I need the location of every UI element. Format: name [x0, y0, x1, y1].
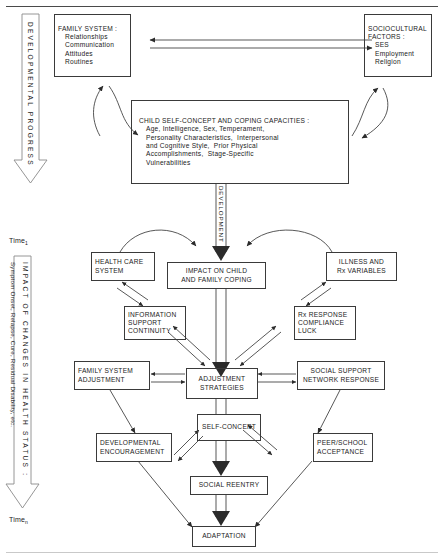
box-line: Routines — [58, 58, 127, 66]
box-line: COMPLIANCE — [298, 319, 352, 327]
box-line: Rx VARIABLES — [330, 267, 393, 275]
box-line: ILLNESS AND — [330, 258, 393, 266]
box-line: Personality Characteristics, Interperson… — [139, 134, 345, 142]
box-line: SES — [368, 41, 428, 49]
box-health-care-system[interactable]: HEALTH CARE SYSTEM — [91, 252, 155, 281]
box-line: Age, Intelligence, Sex, Temperament, — [139, 125, 345, 133]
box-line: FAMILY SYSTEM : — [58, 25, 127, 33]
box-line: IMPACT ON CHILD — [171, 267, 262, 275]
box-illness-rx-variables[interactable]: ILLNESS AND Rx VARIABLES — [326, 252, 397, 281]
box-line: Attitudes — [58, 50, 127, 58]
time-start-text: Time — [9, 237, 25, 244]
box-line: SYSTEM — [95, 267, 151, 275]
box-line: NETWORK RESPONSE — [301, 376, 381, 384]
box-line: HEALTH CARE — [95, 258, 151, 266]
box-line: CHILD SELF-CONCEPT AND COPING CAPACITIES… — [139, 117, 345, 125]
box-line: STRATEGIES — [190, 384, 254, 392]
box-line: ADJUSTMENT — [78, 376, 146, 384]
box-line: SUPPORT — [128, 319, 182, 327]
box-adjustment-strategies[interactable]: ADJUSTMENT STRATEGIES — [186, 368, 258, 399]
box-line: SOCIOCULTURAL — [368, 25, 428, 33]
box-line: LUCK — [298, 327, 352, 335]
box-line: ENCOURAGEMENT — [100, 448, 168, 456]
box-line: PEER/SCHOOL — [317, 439, 369, 447]
box-information-support-continuity[interactable]: INFORMATION SUPPORT CONTINUITY — [124, 306, 186, 340]
time-start-label: Time1 — [9, 237, 28, 246]
developmental-progress-label: DEVELOPMENTAL PROGRESS — [27, 22, 34, 167]
box-family-system[interactable]: FAMILY SYSTEM : Relationships Communicat… — [54, 14, 131, 77]
box-sociocultural-factors[interactable]: SOCIOCULTURAL FACTORS : SES Employment R… — [364, 14, 432, 77]
box-self-concept[interactable]: SELF-CONCEPT — [197, 414, 261, 441]
diagram-canvas: DEVELOPMENTAL PROGRESS IMPACT OF CHANGES… — [0, 0, 444, 559]
box-line: CONTINUITY — [128, 327, 182, 335]
box-family-system-adjustment[interactable]: FAMILY SYSTEM ADJUSTMENT — [74, 361, 150, 390]
box-social-reentry[interactable]: SOCIAL REENTRY — [190, 476, 268, 495]
time-end-text: Time — [9, 516, 25, 523]
box-line: SOCIAL REENTRY — [194, 481, 264, 489]
box-line: Employment — [368, 50, 428, 58]
box-line: Religion — [368, 58, 428, 66]
box-line: Relationships — [58, 33, 127, 41]
development-label: DEVELOPMENT — [218, 186, 225, 243]
time-end-sub: n — [25, 519, 28, 525]
box-rx-response-compliance-luck[interactable]: Rx RESPONSE COMPLIANCE LUCK — [294, 306, 356, 340]
box-social-support-network-response[interactable]: SOCIAL SUPPORT NETWORK RESPONSE — [297, 361, 385, 390]
impact-of-changes-label: IMPACT OF CHANGES IN HEALTH STATUS : — [22, 262, 29, 477]
box-line: ACCEPTANCE — [317, 448, 369, 456]
box-line: ADAPTATION — [196, 532, 252, 540]
box-line: SELF-CONCEPT — [201, 423, 257, 431]
box-line: SOCIAL SUPPORT — [301, 367, 381, 375]
box-line: FACTORS : — [368, 33, 428, 41]
box-impact-on-child[interactable]: IMPACT ON CHILD AND FAMILY COPING — [167, 262, 266, 289]
box-line: FAMILY SYSTEM — [78, 367, 146, 375]
box-developmental-encouragement[interactable]: DEVELOPMENTAL ENCOURAGEMENT — [96, 433, 172, 462]
box-adaptation[interactable]: ADAPTATION — [192, 526, 256, 547]
box-line: Accomplishments, Stage-Specific — [139, 150, 345, 158]
box-child-self-concept[interactable]: CHILD SELF-CONCEPT AND COPING CAPACITIES… — [131, 100, 349, 184]
box-peer-school-acceptance[interactable]: PEER/SCHOOL ACCEPTANCE — [313, 433, 373, 462]
box-line: INFORMATION — [128, 311, 182, 319]
box-line: DEVELOPMENTAL — [100, 439, 168, 447]
box-line: Rx RESPONSE — [298, 311, 352, 319]
box-line: Vulnerabilities — [139, 159, 345, 167]
time-end-label: Timen — [9, 516, 28, 525]
box-line: Communication — [58, 41, 127, 49]
impact-of-changes-sublabel: Symptom Onset, Relapse, Cure, Residual D… — [10, 262, 17, 427]
box-line: and Cognitive Style, Prior Physical — [139, 142, 345, 150]
box-line: ADJUSTMENT — [190, 375, 254, 383]
time-start-sub: 1 — [25, 240, 28, 246]
box-line: AND FAMILY COPING — [171, 276, 262, 284]
